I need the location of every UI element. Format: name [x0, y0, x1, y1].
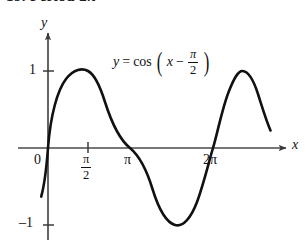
x-axis-label-half-pi: π 2 [80, 153, 92, 182]
equation-close-paren: ) [204, 51, 210, 73]
x-axis-name-label: x [292, 138, 298, 152]
origin-label-zero: 0 [34, 153, 41, 167]
equation-lhs: y [113, 55, 119, 69]
y-axis-label-negative-one: –1 [19, 216, 33, 230]
sine-curve-plot [0, 0, 307, 250]
y-axis-label-one: 1 [29, 63, 36, 77]
figure-container: 19. Period 2π y = cos ( x − π [0, 0, 307, 250]
equation-equals: = [122, 55, 130, 69]
x-axis-label-pi: π [124, 153, 131, 167]
equation-arg-variable: x [167, 55, 173, 69]
equation-function: cos [133, 55, 152, 69]
equation-fraction: π 2 [188, 48, 198, 77]
y-axis-name-label: y [41, 16, 47, 30]
fraction-denominator: 2 [188, 64, 198, 77]
half-pi-denominator: 2 [81, 169, 91, 182]
equation-label: y = cos ( x − π 2 ) [113, 48, 211, 77]
x-axis-label-two-pi: 2π [203, 153, 217, 167]
equation-open-paren: ( [157, 51, 163, 73]
fraction-numerator: π [188, 48, 198, 61]
half-pi-fraction: π 2 [81, 153, 91, 182]
equation-minus-sign: − [176, 55, 184, 69]
half-pi-numerator: π [81, 153, 91, 166]
